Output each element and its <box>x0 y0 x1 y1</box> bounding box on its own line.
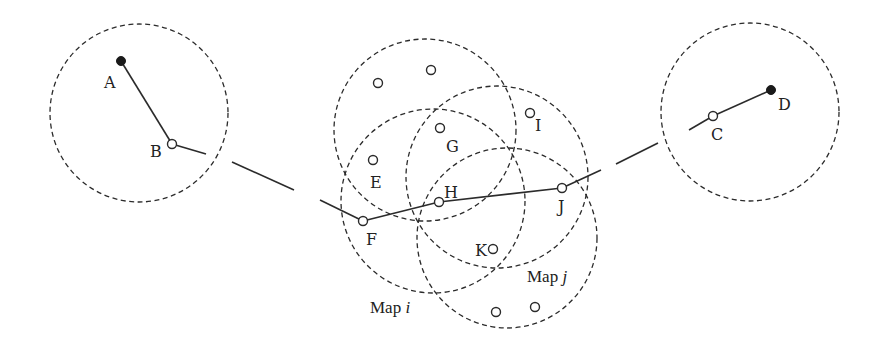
label-f: F <box>366 230 377 249</box>
track-segment-j-out <box>562 170 601 188</box>
map-j-var: j <box>560 267 567 286</box>
node-a <box>117 57 126 66</box>
map-i-label: Map i <box>370 298 410 317</box>
map-i-var: i <box>405 298 410 317</box>
label-a: A <box>103 73 116 92</box>
track-segment-a-b <box>121 61 172 144</box>
landmark-node <box>492 308 501 317</box>
map-overlap-diagram: A B C D E F G H I J K Map i Map j <box>0 0 879 359</box>
track-segment-gap-2 <box>616 143 658 164</box>
label-b: B <box>150 142 162 161</box>
node-i <box>526 109 535 118</box>
map-j-label: Map j <box>527 267 567 286</box>
label-e: E <box>370 173 382 192</box>
track-segment-b-out <box>172 144 206 154</box>
label-j: J <box>556 197 564 216</box>
label-g: G <box>446 137 459 156</box>
range-circle-map-j <box>417 148 597 328</box>
label-h: H <box>444 183 458 202</box>
node-g <box>436 124 445 133</box>
map-i-prefix: Map <box>370 298 405 317</box>
track-segment-c-d <box>713 90 771 116</box>
map-j-prefix: Map <box>527 267 562 286</box>
range-circle-map-i <box>341 109 525 293</box>
landmark-node <box>427 66 436 75</box>
node-b <box>168 140 177 149</box>
label-d: D <box>778 95 791 114</box>
range-circle-top <box>334 39 516 221</box>
node-k <box>489 245 498 254</box>
track-segment-gap-1 <box>232 162 294 190</box>
range-circle-left <box>50 24 228 202</box>
node-d <box>767 86 776 95</box>
node-e <box>369 156 378 165</box>
label-i: I <box>535 116 541 135</box>
label-c: C <box>711 125 723 144</box>
landmark-node <box>531 303 540 312</box>
landmark-node <box>374 79 383 88</box>
track-segment-in-f <box>320 200 363 221</box>
node-c <box>709 112 718 121</box>
range-circle-right <box>661 23 839 201</box>
range-circle-upper-right <box>406 86 588 268</box>
range-circles <box>50 23 839 328</box>
node-f <box>359 217 368 226</box>
label-k: K <box>475 241 488 260</box>
track-segment-f-h <box>363 202 439 221</box>
node-j <box>558 184 567 193</box>
node-h <box>435 198 444 207</box>
